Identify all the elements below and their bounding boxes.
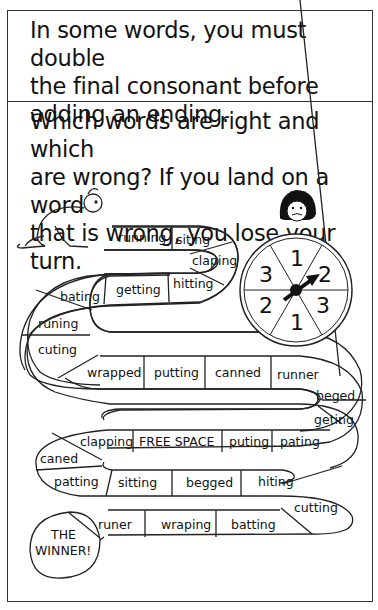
board-square: wraping (161, 517, 211, 532)
board-square: running (118, 230, 166, 245)
board-square: getting (116, 282, 161, 297)
board-square: sitting (118, 475, 157, 490)
spinner-number: 3 (316, 293, 330, 318)
board-square: runing (38, 316, 78, 331)
board-square: clapping (80, 434, 133, 449)
spinner-number: 3 (259, 262, 273, 287)
board-square: wrapped (87, 365, 142, 380)
board-square: batting (231, 517, 276, 532)
board-square: geting (314, 412, 354, 427)
board-square: putting (154, 365, 199, 380)
game-board: running siting claping hitting getting b… (0, 0, 378, 610)
board-square: patting (54, 474, 99, 489)
board-square: begged (186, 475, 233, 490)
spinner-number: 1 (290, 246, 304, 271)
runner-figure-icon (17, 189, 102, 248)
board-square: runner (277, 367, 320, 382)
board-square: canned (215, 365, 261, 380)
board-square: runer (98, 517, 133, 532)
board-square: beged (316, 388, 355, 403)
spinner-number: 2 (318, 262, 332, 287)
spinner[interactable]: 1 2 3 1 2 3 (240, 234, 352, 346)
spinner-number: 2 (259, 293, 273, 318)
finish-label: WINNER! (35, 543, 91, 558)
finish-label: THE (50, 527, 76, 542)
board-square: bating (60, 289, 100, 304)
sad-face-icon (280, 190, 316, 221)
board-square: hitting (173, 276, 214, 291)
board-square: cuting (38, 342, 77, 357)
board-square: siting (176, 232, 210, 247)
board-square: caned (40, 451, 78, 466)
spinner-number: 1 (290, 310, 304, 335)
